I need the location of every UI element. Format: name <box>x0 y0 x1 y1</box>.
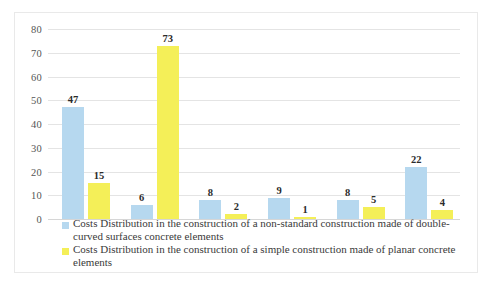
bar-series0-cat5[interactable] <box>405 167 427 219</box>
plot-area: 01020304050607080 4715673829185224 <box>48 29 460 219</box>
data-label-series0-cat4: 8 <box>334 187 362 198</box>
chart-frame: 01020304050607080 4715673829185224 Costs… <box>14 12 478 273</box>
chart-legend: Costs Distribution in the construction o… <box>62 217 462 269</box>
data-label-series1-cat2: 2 <box>222 201 250 212</box>
data-label-series1-cat0: 15 <box>85 170 113 181</box>
legend-item-1[interactable]: Costs Distribution in the construction o… <box>62 243 462 268</box>
legend-label-0: Costs Distribution in the construction o… <box>73 217 462 242</box>
bar-group: 91 <box>266 29 323 219</box>
data-label-series1-cat4: 5 <box>360 194 388 205</box>
data-label-series1-cat5: 4 <box>428 197 456 208</box>
bar-group: 85 <box>335 29 392 219</box>
y-axis-tick-50: 50 <box>31 95 42 106</box>
y-axis-tick-80: 80 <box>31 24 42 35</box>
legend-item-0[interactable]: Costs Distribution in the construction o… <box>62 217 462 242</box>
data-label-series1-cat1: 73 <box>154 33 182 44</box>
y-axis-tick-30: 30 <box>31 142 42 153</box>
y-axis-tick-60: 60 <box>31 71 42 82</box>
data-label-series0-cat2: 8 <box>196 187 224 198</box>
data-label-series0-cat3: 9 <box>265 185 293 196</box>
legend-label-1: Costs Distribution in the construction o… <box>73 243 462 268</box>
legend-swatch-icon-0 <box>62 222 69 229</box>
data-label-series0-cat0: 47 <box>59 94 87 105</box>
y-axis-tick-10: 10 <box>31 190 42 201</box>
y-axis-tick-0: 0 <box>37 214 42 225</box>
bar-groups: 4715673829185224 <box>48 29 460 219</box>
data-label-series0-cat5: 22 <box>402 154 430 165</box>
bar-group: 224 <box>403 29 460 219</box>
data-label-series0-cat1: 6 <box>128 192 156 203</box>
bar-group: 4715 <box>60 29 117 219</box>
bar-group: 82 <box>197 29 254 219</box>
legend-swatch-icon-1 <box>62 248 69 255</box>
bar-series0-cat3[interactable] <box>268 198 290 219</box>
data-label-series1-cat3: 1 <box>291 204 319 215</box>
bar-series1-cat1[interactable] <box>157 46 179 219</box>
y-axis-tick-20: 20 <box>31 166 42 177</box>
bar-series0-cat0[interactable] <box>62 107 84 219</box>
y-axis-tick-40: 40 <box>31 119 42 130</box>
bar-series1-cat0[interactable] <box>88 183 110 219</box>
y-axis-tick-70: 70 <box>31 47 42 58</box>
bar-group: 673 <box>129 29 186 219</box>
